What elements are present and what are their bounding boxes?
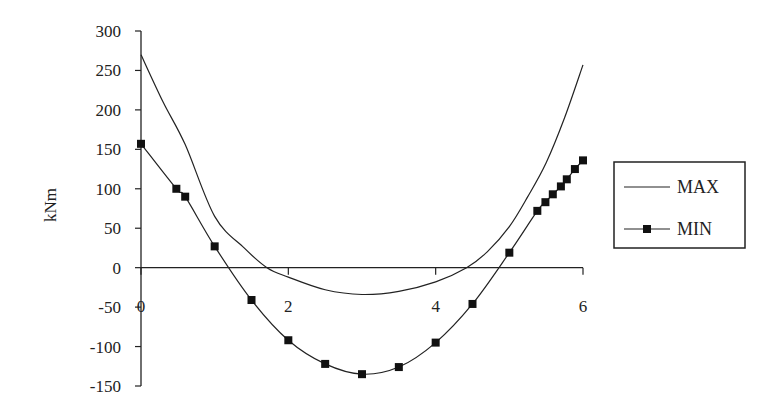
y-tick-label: -100 — [90, 338, 121, 357]
y-axis: 300250200150100500-50-100-150 — [90, 22, 141, 396]
x-axis: 0246 — [137, 268, 588, 316]
data-point-marker — [571, 165, 579, 173]
data-point-marker — [181, 193, 189, 201]
data-point-marker — [505, 249, 513, 257]
data-point-marker — [248, 296, 256, 304]
y-axis-title: kNm — [41, 188, 60, 222]
y-tick-label: -150 — [90, 377, 121, 396]
legend-square-marker-icon — [643, 225, 651, 233]
y-tick-label: 250 — [96, 61, 122, 80]
data-point-marker — [549, 190, 557, 198]
y-tick-label: 50 — [104, 219, 121, 238]
series-line-min — [141, 144, 583, 374]
y-tick-label: 200 — [96, 101, 122, 120]
data-point-marker — [557, 182, 565, 190]
data-point-marker — [432, 339, 440, 347]
y-tick-label: 100 — [96, 180, 122, 199]
data-point-marker — [172, 185, 180, 193]
legend-label-max: MAX — [677, 177, 719, 197]
data-point-marker — [284, 336, 292, 344]
legend: MAX MIN — [614, 162, 745, 248]
data-point-marker — [211, 242, 219, 250]
bending-moment-chart: 300250200150100500-50-100-150 0246 kNm M… — [0, 0, 782, 415]
data-point-marker — [358, 370, 366, 378]
data-point-marker — [321, 360, 329, 368]
series-max — [141, 55, 583, 295]
y-tick-label: -50 — [98, 298, 121, 317]
data-point-marker — [563, 175, 571, 183]
data-point-marker — [533, 207, 541, 215]
data-point-marker — [469, 300, 477, 308]
data-point-marker — [137, 140, 145, 148]
series-line-max — [141, 55, 583, 295]
y-tick-label: 300 — [96, 22, 122, 41]
legend-label-min: MIN — [677, 219, 712, 239]
data-point-marker — [541, 198, 549, 206]
data-point-marker — [395, 363, 403, 371]
data-point-marker — [579, 156, 587, 164]
x-tick-label: 4 — [431, 297, 440, 316]
x-tick-label: 2 — [284, 297, 293, 316]
plot-area — [137, 55, 587, 379]
x-tick-label: 0 — [137, 297, 146, 316]
y-tick-label: 0 — [113, 259, 122, 278]
x-tick-label: 6 — [579, 297, 588, 316]
y-tick-label: 150 — [96, 140, 122, 159]
series-min — [137, 140, 587, 378]
